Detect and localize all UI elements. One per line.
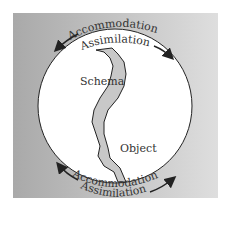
schema-object-diagram: Accommodation Assimilation Accommodation…: [0, 0, 229, 228]
schema-label: Schema: [80, 75, 125, 88]
object-label: Object: [120, 142, 157, 155]
